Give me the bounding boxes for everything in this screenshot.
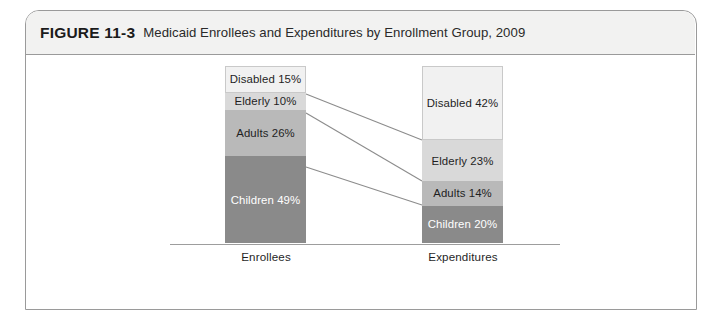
figure-frame	[25, 10, 697, 310]
figure-title: Medicaid Enrollees and Expenditures by E…	[143, 25, 525, 40]
figure-number: FIGURE 11-3	[40, 24, 135, 42]
figure-caption-band: FIGURE 11-3 Medicaid Enrollees and Expen…	[26, 11, 695, 55]
